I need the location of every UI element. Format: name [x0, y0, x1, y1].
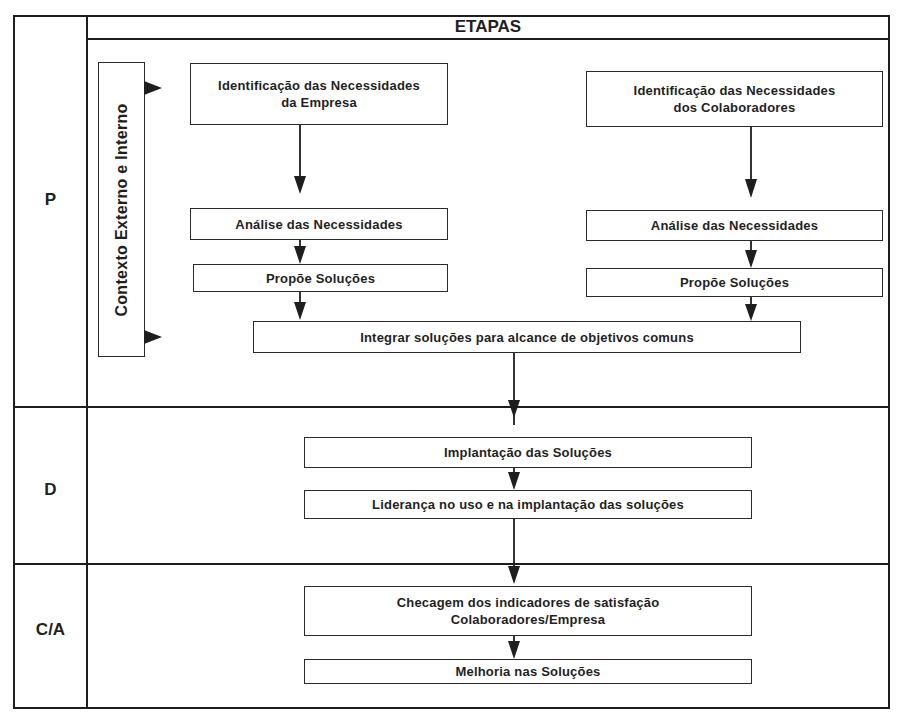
- arrowhead-icon: [745, 179, 757, 198]
- arrowhead-icon: [294, 246, 306, 264]
- context-arrow-top-icon: [144, 81, 162, 95]
- arrowhead-icon: [294, 176, 306, 194]
- context-arrow-bottom-icon: [144, 330, 162, 344]
- arrowhead-icon: [508, 566, 520, 584]
- arrowhead-icon: [745, 304, 757, 321]
- arrowhead-icon: [508, 400, 520, 418]
- arrowhead-icon: [508, 472, 520, 490]
- arrowhead-icon: [508, 641, 520, 659]
- arrowhead-icon: [745, 250, 757, 268]
- edge-arrows: [0, 0, 899, 722]
- arrowhead-icon: [294, 302, 306, 320]
- arrowheads: [144, 81, 757, 659]
